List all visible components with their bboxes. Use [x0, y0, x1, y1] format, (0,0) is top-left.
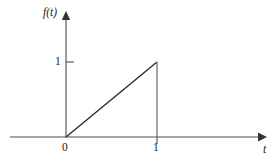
- y-axis-label: f(t): [43, 7, 57, 19]
- plot-svg: [0, 0, 277, 163]
- x-axis-arrowhead-icon: [258, 133, 267, 142]
- ramp-segment: [66, 62, 157, 137]
- y-axis-arrowhead-icon: [62, 11, 70, 20]
- y-tick-label-1: 1: [55, 56, 61, 68]
- x-axis-label: t: [263, 144, 266, 156]
- origin-label: 0: [62, 142, 68, 154]
- x-tick-label-1: 1: [153, 142, 159, 154]
- figure-canvas: f(t) t 1 0 1: [0, 0, 277, 163]
